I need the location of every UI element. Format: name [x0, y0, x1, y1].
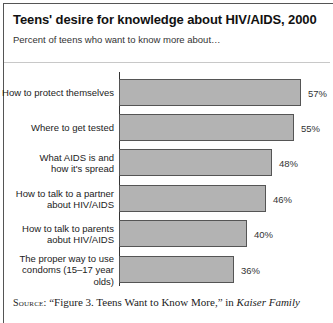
bar-label: Where to get tested	[31, 114, 114, 142]
chart-title: Teens' desire for knowledge about HIV/AI…	[13, 12, 317, 27]
bar-row: How to protect themselves 57%	[0, 79, 330, 107]
bar-value-label: 48%	[279, 149, 298, 177]
bar-value-label: 55%	[301, 114, 320, 142]
bar	[119, 256, 234, 283]
bar-label: The proper way to use condoms (15–17 yea…	[0, 256, 114, 284]
bar	[119, 220, 247, 247]
header-divider	[4, 62, 330, 63]
bar-row: The proper way to use condoms (15–17 yea…	[0, 256, 330, 284]
bar-value-label: 36%	[241, 256, 260, 284]
source-text: “Figure 3. Teens Want to Know More,” in	[46, 296, 236, 308]
bar	[119, 114, 294, 141]
source-prefix: Source:	[13, 297, 46, 308]
bar	[119, 185, 266, 212]
bar-row: Where to get tested 55%	[0, 114, 330, 142]
bar-label: How to talk to a partner about HIV/AIDS	[16, 185, 114, 213]
bar-value-label: 40%	[254, 220, 273, 248]
source-note: Source: “Figure 3. Teens Want to Know Mo…	[13, 296, 300, 308]
bar-label: How to talk to parents aobut HIV/AIDS	[22, 220, 114, 248]
chart-subtitle: Percent of teens who want to know more a…	[13, 34, 221, 45]
source-publication: Kaiser Family	[237, 296, 300, 308]
bar	[119, 149, 272, 176]
bar-label: What AIDS is and how it's spread	[40, 149, 114, 177]
bar-label: How to protect themselves	[2, 79, 114, 107]
bar	[119, 79, 301, 106]
bar-value-label: 46%	[273, 185, 292, 213]
bar-value-label: 57%	[308, 79, 327, 107]
bar-row: How to talk to a partner about HIV/AIDS …	[0, 185, 330, 213]
bar-row: What AIDS is and how it's spread 48%	[0, 149, 330, 177]
bar-row: How to talk to parents aobut HIV/AIDS 40…	[0, 220, 330, 248]
